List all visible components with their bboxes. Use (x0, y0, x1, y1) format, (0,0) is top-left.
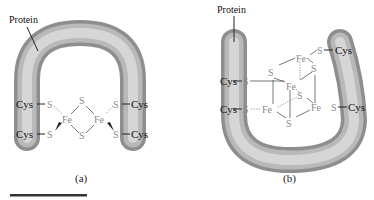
sulfur-cube-b-4: S (286, 118, 292, 129)
protein-label-a: Protein (9, 14, 38, 25)
scale-bar (10, 194, 87, 197)
iron-b-4: Fe (311, 102, 322, 113)
cys-a-1: Cys (16, 98, 33, 110)
sulfur-a-3: S (113, 99, 119, 110)
cys-a-3: Cys (131, 98, 148, 110)
iron-b-1: Fe (296, 53, 307, 64)
cys-a-2: Cys (16, 128, 33, 140)
sulfur-cube-b-2: S (311, 63, 317, 74)
caption-a: (a) (75, 172, 88, 185)
sulfur-cube-b-3: S (297, 90, 303, 101)
iron-b-3: Fe (262, 104, 273, 115)
cys-b-3: Cys (220, 103, 237, 115)
iron-a-1: Fe (62, 114, 73, 125)
caption-b: (b) (283, 172, 296, 185)
sulfur-a-1: S (47, 99, 53, 110)
cys-b-2: Cys (220, 75, 237, 87)
sulfur-a-2: S (47, 129, 53, 140)
sulfur-b-4: S (331, 102, 337, 113)
sulfur-b-1: S (317, 45, 323, 56)
panel-a: Protein Cys Cys Cys Cys S S S S S S Fe F… (9, 14, 148, 185)
cys-b-4: Cys (348, 101, 365, 113)
panel-b: Protein Cys Cys Cys Cys S S S S S S S (217, 4, 365, 185)
iron-a-2: Fe (94, 114, 105, 125)
cys-b-1: Cys (335, 44, 352, 56)
sulfur-b-2: S (243, 76, 249, 87)
sulfur-cube-b-1: S (268, 67, 274, 78)
sulfur-b-3: S (243, 104, 249, 115)
protein-tube-a (27, 33, 133, 138)
protein-label-b: Protein (217, 4, 246, 15)
iron-b-2: Fe (286, 81, 297, 92)
sulfur-bridge-a-2: S (79, 130, 85, 141)
sulfur-a-4: S (113, 129, 119, 140)
sulfur-bridge-a-1: S (79, 95, 85, 106)
cys-a-4: Cys (131, 128, 148, 140)
iron-sulfur-diagram: Protein Cys Cys Cys Cys S S S S S S Fe F… (0, 0, 374, 200)
